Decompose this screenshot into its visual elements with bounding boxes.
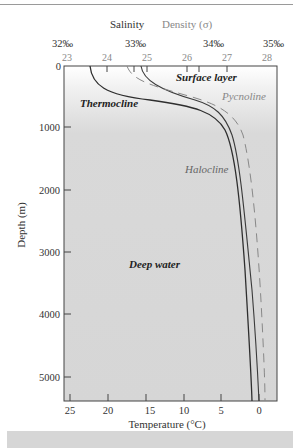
- y-axis-title: Depth (m): [15, 202, 28, 248]
- density-tick: 23: [62, 52, 72, 63]
- x-tick-label: 25: [65, 405, 76, 416]
- x-tick-label: 10: [179, 405, 190, 416]
- density-tick: 24: [102, 52, 112, 63]
- salinity-tick: 35‰: [263, 38, 285, 49]
- annotation-deep-water: Deep water: [128, 258, 181, 270]
- y-tick-label: 4000: [39, 309, 60, 320]
- x-tick-label: 5: [218, 405, 223, 416]
- density-axis-title: Density (σ): [162, 18, 213, 31]
- x-tick-label: 20: [103, 405, 114, 416]
- density-tick: 28: [262, 52, 272, 63]
- annotation-surface-layer: Surface layer: [176, 71, 238, 83]
- salinity-axis-title: Salinity: [110, 18, 145, 30]
- annotation-halocline: Halocline: [184, 163, 228, 175]
- y-tick-label: 1000: [39, 122, 60, 133]
- annotation-thermocline: Thermocline: [80, 97, 138, 109]
- salinity-tick: 33‰: [125, 38, 147, 49]
- x-tick-label: 15: [145, 405, 156, 416]
- annotation-pycnoline: Pycnoline: [221, 90, 266, 102]
- y-tick-label: 0: [56, 61, 61, 72]
- density-tick: 27: [222, 52, 232, 63]
- bottom-bar: [7, 431, 293, 448]
- salinity-tick: 32‰: [52, 38, 74, 49]
- density-tick: 25: [142, 52, 152, 63]
- plot-area: [64, 66, 277, 401]
- x-axis-title: Temperature (°C): [128, 418, 206, 431]
- x-tick-label: 0: [256, 405, 261, 416]
- y-tick-label: 5000: [39, 372, 60, 383]
- ocean-profile-chart: Salinity Density (σ) 32‰ 33‰ 34‰ 35‰ 23 …: [0, 0, 293, 448]
- salinity-tick: 34‰: [203, 38, 225, 49]
- y-tick-label: 3000: [39, 247, 60, 258]
- y-tick-label: 2000: [39, 185, 60, 196]
- density-tick: 26: [182, 52, 192, 63]
